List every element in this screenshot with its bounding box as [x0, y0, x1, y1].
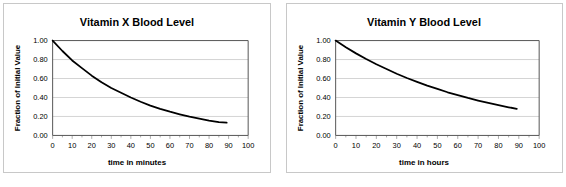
data-curve-vitamin-x — [53, 41, 227, 123]
y-axis-title: Fraction of Initial Value — [13, 44, 22, 131]
y-tick-label: 0.00 — [33, 131, 47, 140]
x-tick-label: 30 — [107, 141, 115, 150]
x-tick-label: 90 — [515, 141, 523, 150]
chart-svg-vitamin-y: Vitamin Y Blood Level time in hours Frac… — [287, 4, 562, 172]
y-tick-label: 0.40 — [316, 93, 330, 102]
x-tick-label: 90 — [224, 141, 232, 150]
y-tick-label: 0.80 — [316, 55, 330, 64]
x-tick-label: 30 — [393, 141, 401, 150]
x-tick-label: 20 — [88, 141, 96, 150]
x-tick-label: 40 — [127, 141, 135, 150]
x-tick-label: 100 — [533, 141, 545, 150]
chart-title: Vitamin X Blood Level — [80, 16, 194, 28]
y-tick-label: 0.00 — [316, 131, 330, 140]
x-axis-title: time in minutes — [108, 158, 167, 167]
data-curve-vitamin-y — [336, 41, 517, 109]
y-axis-title: Fraction of Initial Value — [296, 44, 305, 131]
x-tick-label: 70 — [185, 141, 193, 150]
x-tick-label: 80 — [494, 141, 502, 150]
chart-svg-vitamin-x: Vitamin X Blood Level time in minutes Fr… — [4, 4, 270, 172]
chart-panel-vitamin-y: Vitamin Y Blood Level time in hours Frac… — [286, 3, 563, 173]
x-tick-label: 70 — [474, 141, 482, 150]
x-tick-label: 50 — [433, 141, 441, 150]
x-tick-marks-group — [336, 135, 540, 138]
chart-panel-vitamin-x: Vitamin X Blood Level time in minutes Fr… — [3, 3, 271, 173]
y-tick-labels-group: 0.000.200.400.600.801.00 — [316, 36, 330, 140]
x-tick-label: 40 — [413, 141, 421, 150]
plot-frame-group — [53, 41, 249, 136]
y-tick-label: 0.60 — [316, 74, 330, 83]
x-tick-label: 60 — [166, 141, 174, 150]
x-tick-label: 0 — [334, 141, 338, 150]
x-tick-label: 20 — [372, 141, 380, 150]
figure-canvas: Vitamin X Blood Level time in minutes Fr… — [0, 0, 566, 187]
x-tick-marks-group — [53, 135, 249, 138]
y-tick-label: 1.00 — [33, 36, 47, 45]
x-tick-label: 60 — [454, 141, 462, 150]
x-tick-label: 50 — [146, 141, 154, 150]
x-axis-title: time in hours — [399, 158, 449, 167]
plot-frame-group — [336, 41, 540, 136]
y-tick-label: 0.20 — [33, 112, 47, 121]
x-tick-label: 10 — [352, 141, 360, 150]
x-tick-labels-group: 0102030405060708090100 — [51, 141, 255, 150]
y-tick-label: 0.40 — [33, 93, 47, 102]
chart-title: Vitamin Y Blood Level — [367, 16, 481, 28]
x-tick-label: 100 — [242, 141, 254, 150]
y-tick-label: 0.20 — [316, 112, 330, 121]
x-tick-label: 80 — [205, 141, 213, 150]
y-tick-label: 1.00 — [316, 36, 330, 45]
x-tick-label: 10 — [68, 141, 76, 150]
y-tick-labels-group: 0.000.200.400.600.801.00 — [33, 36, 47, 140]
y-tick-label: 0.80 — [33, 55, 47, 64]
y-tick-label: 0.60 — [33, 74, 47, 83]
x-tick-labels-group: 0102030405060708090100 — [334, 141, 546, 150]
x-tick-label: 0 — [51, 141, 55, 150]
